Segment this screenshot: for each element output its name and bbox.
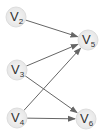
- edge-v3-v6: [25, 76, 77, 113]
- graph-canvas: V2V3V4V5V6: [0, 0, 103, 138]
- nodes: V2V3V4V5V6: [6, 7, 98, 129]
- edge-v2-v5: [26, 20, 78, 37]
- node-v3: V3: [7, 60, 27, 80]
- edges: [24, 20, 81, 119]
- node-v4: V4: [7, 108, 27, 128]
- node-v2: V2: [6, 7, 26, 27]
- graph-diagram: V2V3V4V5V6: [0, 0, 103, 138]
- edge-v4-v5: [24, 48, 81, 110]
- node-v5: V5: [78, 30, 98, 50]
- node-v6: V6: [76, 109, 96, 129]
- edge-v4-v6: [27, 118, 75, 119]
- edge-v3-v5: [26, 44, 78, 66]
